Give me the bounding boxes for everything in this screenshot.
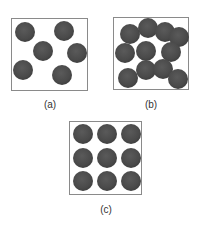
particle: [13, 60, 33, 80]
panel-label-a: (a): [44, 99, 56, 110]
particle: [73, 148, 93, 168]
particle: [97, 171, 117, 191]
particle: [121, 148, 141, 168]
panel-label-c: (c): [100, 204, 112, 215]
particle: [73, 124, 93, 144]
particle: [120, 24, 140, 44]
particle: [33, 41, 53, 61]
particle: [15, 22, 35, 42]
particle: [168, 69, 188, 89]
particle: [118, 68, 138, 88]
particle: [121, 124, 141, 144]
particle: [54, 21, 74, 41]
particle: [52, 65, 72, 85]
panel-label-b: (b): [145, 99, 157, 110]
particle: [97, 148, 117, 168]
particle: [73, 171, 93, 191]
particle: [67, 43, 87, 63]
particle: [115, 43, 135, 63]
particle: [121, 171, 141, 191]
particle: [97, 124, 117, 144]
particle: [136, 41, 156, 61]
